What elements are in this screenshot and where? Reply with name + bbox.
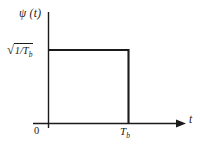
radicand-main: 1/T <box>15 45 29 56</box>
x-tick-tb-subscript: b <box>126 131 130 140</box>
y-tick-label-amplitude: √ 1/Tb <box>7 43 33 59</box>
x-tick-label-tb: Tb <box>120 126 130 140</box>
radicand-subscript: b <box>29 50 33 59</box>
y-axis-label: ψ (t) <box>19 8 41 20</box>
plot-canvas <box>0 0 208 148</box>
pulse-waveform <box>49 50 129 124</box>
x-axis <box>33 120 186 128</box>
origin-label: 0 <box>34 126 39 137</box>
radicand: 1/Tb <box>14 43 34 59</box>
waveform-figure: ψ (t) t 0 Tb √ 1/Tb <box>0 0 208 148</box>
x-axis-arrowhead <box>176 120 186 128</box>
radical-icon: √ <box>7 43 14 56</box>
x-axis-label: t <box>189 114 192 126</box>
